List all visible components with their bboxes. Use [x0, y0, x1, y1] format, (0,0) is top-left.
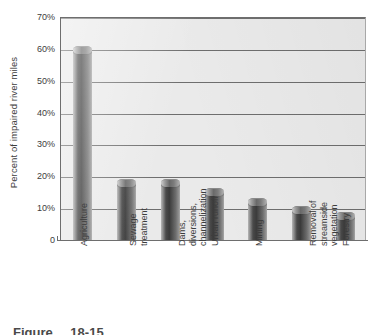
y-axis-title-text: Percent of impaired river miles: [9, 57, 20, 188]
y-axis-tick-label: 40%: [21, 108, 55, 118]
y-axis-tick-label: 10%: [21, 203, 55, 213]
figure-caption: Figure 18-15: [13, 325, 118, 335]
x-axis-tick-label-line: vegetation: [329, 200, 340, 246]
x-axis-tick-label: Forestry: [304, 244, 381, 322]
y-axis-tick-labels: 70%60%50%40%30%20%10%0: [22, 0, 58, 245]
figure-bar-chart: Percent of impaired river miles 70%60%50…: [0, 0, 381, 335]
x-axis-tick-label-line: treatment: [138, 208, 149, 246]
y-axis-tick-label: 70%: [21, 12, 55, 22]
bar-cap: [117, 179, 136, 187]
bar-cap: [161, 179, 180, 187]
figure-caption-label: Figure: [13, 325, 53, 335]
y-axis-tick-label: 60%: [21, 44, 55, 54]
x-axis-tick-label-line: Forestry: [341, 213, 352, 246]
x-axis-tick-label-line: streamside: [318, 200, 329, 246]
x-axis-tick-labels: AgricultureSewagetreatmentDams,diversion…: [0, 244, 381, 322]
x-axis-tick-label-line: Sewage: [128, 208, 139, 246]
y-axis-tick-label: 50%: [21, 76, 55, 86]
x-axis-tick-label-line: Dams,: [177, 188, 188, 246]
x-axis-tick-label-line: diversions,: [187, 188, 198, 246]
figure-caption-number: 18-15: [70, 325, 103, 335]
x-axis-origin-tick: [57, 236, 58, 241]
x-axis-tick-label-line: Removal of: [308, 200, 319, 246]
x-axis-tick-label-line: Urban runoff: [210, 196, 221, 246]
x-axis-tick-label-line: Mining: [254, 219, 265, 246]
y-axis-tick-label: 20%: [21, 171, 55, 181]
x-axis-tick-label-line: Agriculture: [79, 203, 90, 246]
x-axis-tick-label-line: channelization: [198, 188, 209, 246]
bar-cap: [248, 198, 267, 206]
y-axis-tick-label: 30%: [21, 139, 55, 149]
bar-cap: [73, 46, 92, 54]
